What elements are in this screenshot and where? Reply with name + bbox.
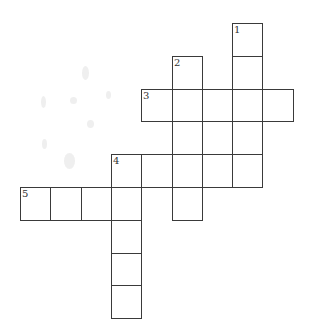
- crossword-cell[interactable]: [141, 154, 173, 188]
- crossword-cell[interactable]: [172, 154, 203, 188]
- clue-number: 5: [22, 188, 28, 199]
- clue-number: 3: [143, 90, 149, 101]
- crossword-cell[interactable]: [232, 121, 263, 155]
- crossword-cell[interactable]: [111, 285, 142, 319]
- crossword-cell[interactable]: [81, 187, 112, 221]
- crossword-cell[interactable]: [202, 121, 233, 155]
- crossword-cell[interactable]: 1: [232, 23, 263, 57]
- clue-number: 2: [174, 57, 180, 68]
- crossword-cell[interactable]: [202, 89, 233, 122]
- crossword-grid: 12345: [0, 0, 309, 331]
- crossword-cell[interactable]: [262, 89, 294, 122]
- crossword-cell[interactable]: [172, 121, 203, 155]
- crossword-cell[interactable]: [111, 187, 142, 221]
- crossword-cell[interactable]: [232, 154, 263, 188]
- crossword-cell[interactable]: 3: [141, 89, 173, 122]
- crossword-cell[interactable]: 2: [172, 56, 203, 90]
- crossword-cell[interactable]: [232, 56, 263, 90]
- crossword-cell[interactable]: [232, 89, 263, 122]
- crossword-cell[interactable]: [50, 187, 82, 221]
- crossword-cell[interactable]: 4: [111, 154, 142, 188]
- crossword-cell[interactable]: [111, 253, 142, 286]
- clue-number: 1: [234, 24, 240, 35]
- crossword-cell[interactable]: [202, 154, 233, 188]
- crossword-cell[interactable]: [111, 220, 142, 254]
- crossword-cell[interactable]: [172, 89, 203, 122]
- crossword-cell[interactable]: 5: [20, 187, 51, 221]
- crossword-cell[interactable]: [172, 187, 203, 221]
- clue-number: 4: [113, 155, 119, 166]
